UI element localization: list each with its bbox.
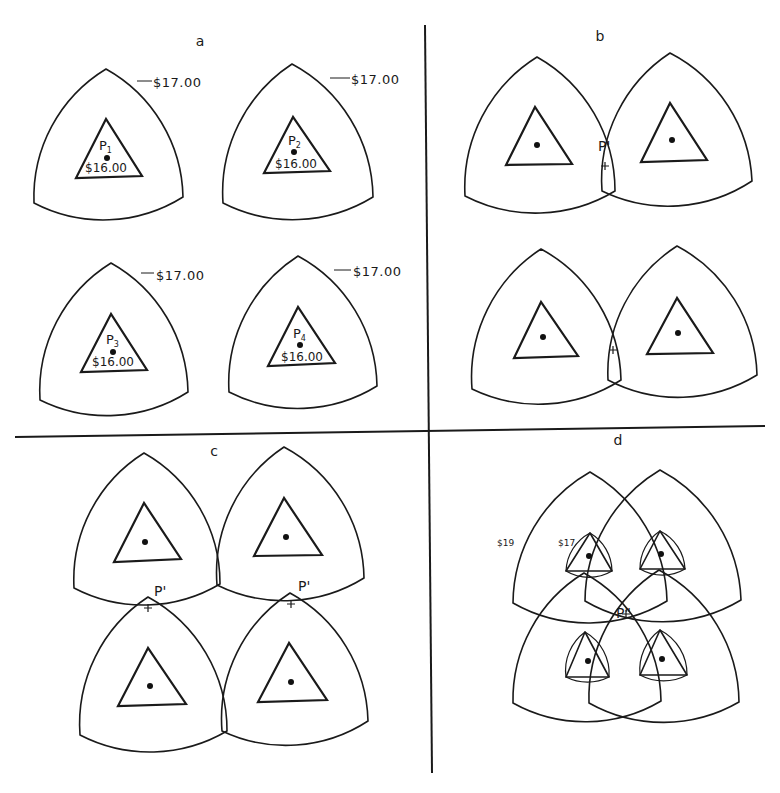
- price-label-19: $19: [497, 538, 514, 548]
- market-area-p1: P1$16.00$17.00: [34, 69, 202, 220]
- horizontal-divider: [15, 426, 765, 437]
- outer-area-bottom-left: [513, 573, 661, 722]
- vertical-divider: [425, 25, 432, 773]
- market-area-left-bottom: [472, 249, 621, 404]
- center-price-label: $16.00: [92, 355, 134, 369]
- panel-c: cP'P': [74, 443, 368, 752]
- panel-label: c: [210, 443, 218, 459]
- point-subscript: 3: [114, 340, 119, 349]
- p-double-prime-marker: P": [616, 605, 631, 621]
- point-label: P4: [293, 326, 306, 343]
- market-boundary: [222, 593, 368, 745]
- triangle-core: [258, 643, 327, 702]
- marker-label: P': [154, 583, 166, 599]
- center-price-label: $16.00: [275, 157, 317, 171]
- market-boundary: [80, 597, 227, 752]
- marker-label: P": [616, 605, 631, 621]
- boundary-price-label: $17.00: [156, 268, 205, 283]
- triangle-core: [566, 632, 609, 677]
- boundary-price-label: $17.00: [153, 75, 202, 90]
- market-area-p2: P2$16.00$17.00: [223, 64, 400, 220]
- production-point-dot: [659, 656, 665, 662]
- inner-area-top-right: [640, 531, 685, 575]
- market-area-top-left: [74, 453, 220, 605]
- market-area-right-top: [602, 53, 752, 206]
- market-area-p3: P3$16.00$17.00: [40, 263, 205, 416]
- production-point-dot: [675, 330, 681, 336]
- price-label-17: $17: [558, 538, 575, 548]
- production-point-dot: [658, 551, 664, 557]
- triangle-core: [118, 648, 186, 706]
- market-areas-figure: aP1$16.00$17.00P2$16.00$17.00P3$16.00$17…: [0, 0, 780, 793]
- outer-area-top-left: [513, 472, 667, 623]
- point-label: P3: [106, 332, 119, 349]
- center-price-label: $16.00: [281, 350, 323, 364]
- market-boundary: [465, 57, 615, 213]
- production-point-dot: [147, 683, 153, 689]
- panel-a: aP1$16.00$17.00P2$16.00$17.00P3$16.00$17…: [34, 33, 402, 416]
- production-point-dot: [585, 658, 591, 664]
- market-area-bottom-left: [80, 597, 227, 752]
- point-subscript: 1: [107, 146, 112, 155]
- triangle-core: [640, 630, 687, 675]
- triangle-core: [647, 298, 713, 354]
- triangle-core: [114, 503, 181, 562]
- production-point-dot: [540, 334, 546, 340]
- production-point-dot: [283, 534, 289, 540]
- market-area-left-top: [465, 57, 615, 213]
- market-boundary: [602, 53, 752, 206]
- panel-label: d: [614, 432, 623, 448]
- inner-boundary: [566, 632, 610, 682]
- point-subscript: 4: [301, 334, 306, 343]
- market-boundary: [34, 69, 183, 220]
- panel-label: b: [596, 28, 605, 44]
- production-point-dot: [534, 142, 540, 148]
- boundary-price-label: $17.00: [351, 72, 400, 87]
- panels: aP1$16.00$17.00P2$16.00$17.00P3$16.00$17…: [34, 28, 757, 752]
- market-area-p4: P4$16.00$17.00: [229, 256, 402, 409]
- boundary-price-label: $17.00: [353, 264, 402, 279]
- market-boundary: [217, 447, 364, 601]
- market-boundary: [608, 246, 757, 397]
- outer-area-top-right: [585, 470, 741, 622]
- triangle-core: [641, 103, 707, 162]
- market-area-top-right: [217, 447, 364, 601]
- inner-area-bottom-left: [566, 632, 610, 682]
- triangle-core: [514, 302, 578, 358]
- point-label: P1: [99, 138, 112, 155]
- inner-boundary: [640, 630, 687, 681]
- market-boundary: [472, 249, 621, 404]
- panel-label: a: [196, 33, 205, 49]
- market-area-bottom-right: [222, 593, 368, 745]
- triangle-core: [506, 107, 572, 165]
- center-price-label: $16.00: [85, 161, 127, 175]
- production-point-dot: [586, 553, 592, 559]
- panel-b: bP': [465, 28, 757, 404]
- point-subscript: 2: [296, 141, 301, 150]
- triangle-core: [254, 498, 322, 556]
- triangle-core: [640, 531, 685, 569]
- marker-label: P': [598, 138, 610, 154]
- point-label: P2: [288, 133, 301, 150]
- marker-label: P': [298, 578, 310, 594]
- market-area-right-bottom: [608, 246, 757, 397]
- panel-d: d$19$17P": [497, 432, 741, 722]
- production-point-dot: [669, 137, 675, 143]
- production-point-dot: [288, 679, 294, 685]
- production-point-dot: [142, 539, 148, 545]
- inner-area-bottom-right: [640, 630, 687, 681]
- market-boundary: [74, 453, 220, 605]
